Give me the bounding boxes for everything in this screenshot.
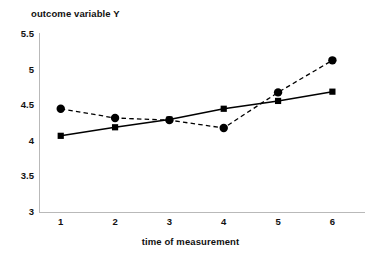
data-point-fitted <box>112 124 118 130</box>
data-point-fitted <box>58 133 64 139</box>
plot-area <box>0 0 381 259</box>
data-point-observed <box>328 56 336 64</box>
data-point-fitted <box>221 106 227 112</box>
series-line-observed <box>61 60 333 128</box>
data-point-fitted <box>166 116 172 122</box>
data-point-observed <box>111 114 119 122</box>
chart-container: outcome variable Y 33.544.555.5 123456 t… <box>0 0 381 259</box>
data-point-observed <box>274 88 282 96</box>
data-point-observed <box>57 105 65 113</box>
data-point-observed <box>220 124 228 132</box>
data-point-fitted <box>275 98 281 104</box>
series-line-fitted <box>61 92 333 136</box>
data-point-fitted <box>329 89 335 95</box>
x-axis-title: time of measurement <box>0 236 381 247</box>
